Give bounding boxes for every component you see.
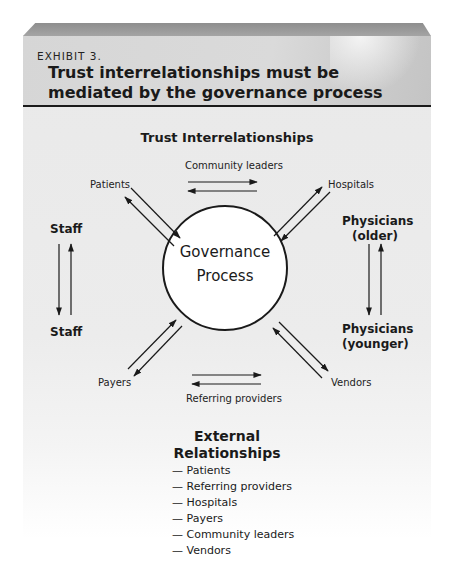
list-item: — Patients <box>172 463 294 479</box>
list-item: — Hospitals <box>172 495 294 511</box>
center-line-2: Process <box>163 264 287 288</box>
ext-title-line-2: Relationships <box>0 445 454 462</box>
node-staff-bottom: Staff <box>50 325 82 340</box>
list-item: — Community leaders <box>172 527 294 543</box>
physicians-older-line-2: (older) <box>342 229 408 244</box>
arrow-hospitals-to-center <box>281 192 330 241</box>
node-vendors: Vendors <box>331 377 371 388</box>
node-physicians-younger: Physicians (younger) <box>342 322 408 352</box>
node-hospitals: Hospitals <box>328 179 374 190</box>
ext-title-line-1: External <box>0 428 454 445</box>
external-relationships-title: External Relationships <box>0 428 454 462</box>
node-staff-top: Staff <box>50 222 82 237</box>
arrow-center-to-payers <box>134 326 182 376</box>
governance-process-label: Governance Process <box>163 240 287 288</box>
physicians-younger-line-2: (younger) <box>342 337 408 352</box>
node-patients: Patients <box>90 179 130 190</box>
arrow-center-to-vendors <box>279 322 328 371</box>
node-community-leaders: Community leaders <box>185 160 283 171</box>
arrow-center-to-hospitals <box>274 187 322 236</box>
center-line-1: Governance <box>163 240 287 264</box>
external-relationships-list: — Patients — Referring providers — Hospi… <box>172 463 294 559</box>
arrow-payers-to-center <box>128 320 176 369</box>
physicians-younger-line-1: Physicians <box>342 322 408 337</box>
list-item: — Referring providers <box>172 479 294 495</box>
node-physicians-older: Physicians (older) <box>342 214 408 244</box>
arrow-center-to-patients <box>125 197 174 246</box>
physicians-older-line-1: Physicians <box>342 214 408 229</box>
arrow-vendors-to-center <box>273 328 322 378</box>
node-payers: Payers <box>98 377 131 388</box>
node-referring-providers: Referring providers <box>186 393 282 404</box>
list-item: — Vendors <box>172 543 294 559</box>
arrow-patients-to-center <box>131 188 180 238</box>
list-item: — Payers <box>172 511 294 527</box>
